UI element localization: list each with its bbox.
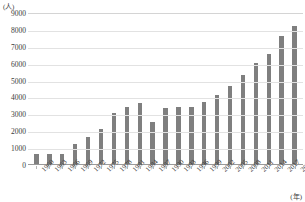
x-axis-tick-label: 1978 xyxy=(118,168,124,174)
x-axis-unit-label: (年) xyxy=(290,191,302,201)
bar-slot xyxy=(224,14,237,164)
x-axis-tick-label: 2014 xyxy=(273,168,279,174)
plot-area xyxy=(28,13,303,165)
x-axis-tick-label: 1984 xyxy=(144,168,150,174)
x-axis-tick-label: 1972 xyxy=(92,168,98,174)
x-axis-tick-mark xyxy=(269,166,270,169)
bar-series xyxy=(28,14,303,164)
x-axis-tick-mark xyxy=(204,166,205,169)
x-axis-tick-label: 1963 xyxy=(53,168,59,174)
y-axis-tick-label: 1000 xyxy=(0,144,26,153)
x-axis-tick-labels: 1960196319661969197219751978198119841987… xyxy=(28,166,303,200)
x-axis-tick-mark xyxy=(230,166,231,169)
bar xyxy=(241,75,245,165)
bar-slot xyxy=(159,14,172,164)
gridline xyxy=(28,115,303,116)
x-axis-tick-label: 1975 xyxy=(105,168,111,174)
y-axis-tick-label: 3000 xyxy=(0,110,26,119)
bar-slot xyxy=(172,14,185,164)
bar-slot xyxy=(146,14,159,164)
x-axis-tick-label: 1987 xyxy=(157,168,163,174)
y-axis-tick-label: 8000 xyxy=(0,25,26,34)
bar-slot xyxy=(211,14,224,164)
bar xyxy=(112,113,116,164)
x-axis-tick-label: 2002 xyxy=(221,168,227,174)
x-axis-tick-label: 1960 xyxy=(40,168,46,174)
bar xyxy=(163,108,167,164)
bar-slot xyxy=(69,14,82,164)
x-axis-tick-mark xyxy=(62,166,63,169)
bar xyxy=(292,26,296,164)
y-axis-tick-label: 7000 xyxy=(0,42,26,51)
x-axis-tick-label: 2017 xyxy=(286,168,292,174)
x-axis-tick-mark xyxy=(256,166,257,169)
gridline xyxy=(28,132,303,133)
bar-slot xyxy=(249,14,262,164)
gridline xyxy=(28,98,303,99)
x-axis-tick-mark xyxy=(217,166,218,169)
x-axis-tick-label: 2005 xyxy=(234,168,240,174)
bar-slot xyxy=(198,14,211,164)
x-axis-tick-label: 1999 xyxy=(208,168,214,174)
y-axis-tick-label: 0 xyxy=(0,161,26,170)
bar-slot xyxy=(30,14,43,164)
gridline xyxy=(28,149,303,150)
bar-slot xyxy=(95,14,108,164)
x-axis-tick-mark xyxy=(49,166,50,169)
bar xyxy=(279,36,283,164)
x-axis-tick-mark xyxy=(75,166,76,169)
gridline xyxy=(28,82,303,83)
y-axis-unit-label: (人) xyxy=(3,1,14,11)
x-axis-tick-mark xyxy=(153,166,154,169)
x-axis-tick-mark xyxy=(101,166,102,169)
bar-slot xyxy=(120,14,133,164)
bar xyxy=(215,95,219,164)
y-axis-tick-label: 5000 xyxy=(0,76,26,85)
bar xyxy=(267,54,271,164)
bar-slot xyxy=(107,14,120,164)
bar-slot xyxy=(82,14,95,164)
y-axis-tick-label: 6000 xyxy=(0,59,26,68)
bar xyxy=(34,154,38,164)
x-axis-tick-label: 1981 xyxy=(131,168,137,174)
bar-slot xyxy=(185,14,198,164)
x-axis-tick-mark xyxy=(243,166,244,169)
gridline xyxy=(28,48,303,49)
bar-slot xyxy=(43,14,56,164)
bar-slot xyxy=(288,14,301,164)
x-axis-tick-mark xyxy=(295,166,296,169)
bar-slot xyxy=(56,14,69,164)
x-axis-tick-mark xyxy=(178,166,179,169)
x-axis-tick-mark xyxy=(140,166,141,169)
y-axis-tick-label: 2000 xyxy=(0,127,26,136)
bar-slot xyxy=(275,14,288,164)
bar-chart: (人) 010002000300040005000600070008000900… xyxy=(0,0,305,202)
bar-slot xyxy=(133,14,146,164)
x-axis-tick-label: 2011 xyxy=(260,168,266,174)
x-axis-tick-mark xyxy=(166,166,167,169)
bar-slot xyxy=(262,14,275,164)
x-axis-tick-mark xyxy=(282,166,283,169)
x-axis-tick-label: 2020 xyxy=(299,168,305,174)
x-axis-tick-mark xyxy=(88,166,89,169)
gridline xyxy=(28,65,303,66)
x-axis-tick-mark xyxy=(114,166,115,169)
x-axis-tick-label: 1990 xyxy=(170,168,176,174)
gridline xyxy=(28,31,303,32)
x-axis-tick-mark xyxy=(127,166,128,169)
bar xyxy=(138,103,142,164)
x-axis-tick-label: 1993 xyxy=(182,168,188,174)
x-axis-tick-label: 1996 xyxy=(195,168,201,174)
x-axis-tick-mark xyxy=(191,166,192,169)
x-axis-tick-label: 1966 xyxy=(66,168,72,174)
x-axis-tick-label: 1969 xyxy=(79,168,85,174)
x-axis-tick-mark xyxy=(36,166,37,169)
y-axis-tick-label: 4000 xyxy=(0,93,26,102)
bar-slot xyxy=(237,14,250,164)
x-axis-tick-label: 2008 xyxy=(247,168,253,174)
